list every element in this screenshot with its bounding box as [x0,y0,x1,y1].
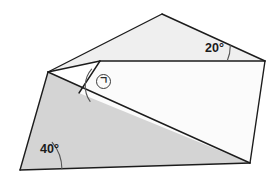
angle-label-20: 20° [205,42,224,55]
geometry-figure: 20° 40° ㄱ [0,0,280,177]
unknown-angle-marker-icon: ㄱ [96,74,111,89]
unknown-angle-marker-label: ㄱ [99,76,108,86]
angle-label-40: 40° [40,143,59,156]
